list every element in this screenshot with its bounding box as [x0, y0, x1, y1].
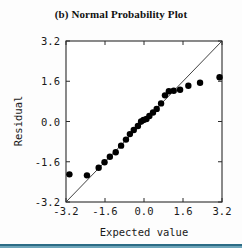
data-point: [158, 100, 164, 106]
data-point: [171, 88, 177, 94]
y-tick-label: -1.6: [35, 156, 60, 168]
figure-panel: (b) Normal Probability Plot -3.2-1.60.01…: [0, 0, 242, 248]
x-axis-title: Expected value: [100, 226, 189, 238]
data-point: [216, 74, 222, 80]
data-point: [107, 154, 113, 160]
data-point: [123, 136, 129, 142]
x-tick-label: 0.0: [135, 205, 154, 217]
y-tick-labels: -3.2-1.60.01.63.2: [35, 35, 60, 208]
data-point: [113, 149, 119, 155]
x-tick-label: -1.6: [92, 205, 117, 217]
data-point: [118, 142, 124, 148]
x-tick-labels: -3.2-1.60.01.63.2: [53, 205, 231, 217]
y-axis-title: Residual: [12, 96, 24, 147]
data-point: [95, 165, 101, 171]
data-point: [153, 106, 159, 112]
data-point: [177, 87, 183, 93]
y-tick-label: 1.6: [41, 75, 60, 87]
x-tick-label: 1.6: [174, 205, 193, 217]
normal-probability-plot: -3.2-1.60.01.63.2 -3.2-1.60.01.63.2 Expe…: [0, 0, 242, 248]
y-tick-label: 3.2: [41, 35, 60, 47]
data-point: [185, 83, 191, 89]
data-point: [101, 159, 107, 165]
data-point: [66, 171, 72, 177]
x-tick-label: 3.2: [213, 205, 232, 217]
data-point: [84, 172, 90, 178]
y-tick-label: -3.2: [35, 196, 60, 208]
y-tick-label: 0.0: [41, 116, 60, 128]
data-point: [197, 80, 203, 86]
